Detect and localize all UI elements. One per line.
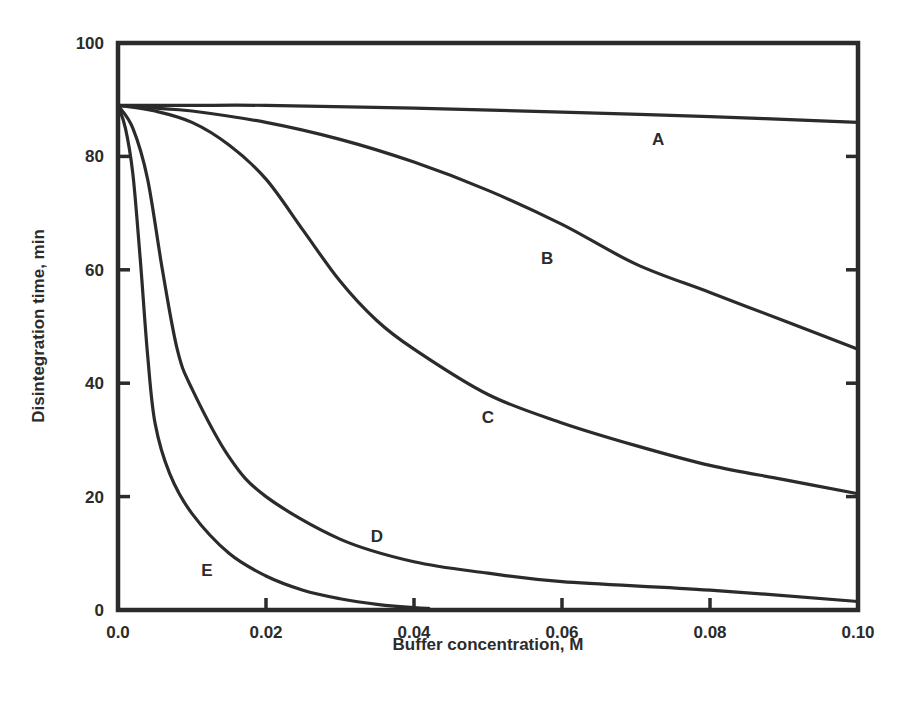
- x-tick-label: 0.0: [106, 623, 130, 642]
- x-tick-label: 0.02: [249, 623, 282, 642]
- x-tick-label: 0.10: [841, 623, 874, 642]
- x-axis-title: Buffer concentration, M: [393, 635, 584, 654]
- curve-b: [118, 105, 858, 349]
- curve-a: [118, 105, 858, 122]
- y-tick-label: 100: [76, 34, 104, 53]
- curve-label-d: D: [371, 527, 383, 546]
- curves: [118, 105, 858, 608]
- y-tick-label: 20: [85, 488, 104, 507]
- curve-d: [118, 105, 858, 601]
- curve-label-a: A: [652, 130, 664, 149]
- y-tick-label: 80: [85, 147, 104, 166]
- curve-label-c: C: [482, 408, 494, 427]
- y-tick-label: 40: [85, 374, 104, 393]
- y-tick-label: 60: [85, 261, 104, 280]
- chart: ABCDE 0.00.020.040.060.080.10 0204060801…: [0, 0, 908, 712]
- y-axis-title: Disintegration time, min: [29, 229, 48, 423]
- curve-labels: ABCDE: [201, 130, 664, 580]
- curve-c: [118, 105, 858, 493]
- curve-label-b: B: [541, 249, 553, 268]
- curve-label-e: E: [201, 561, 212, 580]
- y-tick-label: 0: [95, 601, 104, 620]
- x-tick-label: 0.08: [693, 623, 726, 642]
- plot-frame: [118, 43, 858, 610]
